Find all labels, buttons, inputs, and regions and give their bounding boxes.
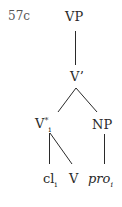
edge-vstar-v — [50, 133, 72, 164]
edge-vbar-vstar — [58, 88, 76, 112]
edge-vbar-np — [76, 88, 97, 112]
tree-edges — [0, 0, 122, 207]
